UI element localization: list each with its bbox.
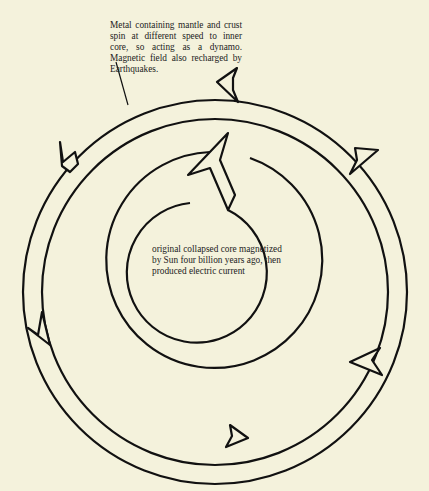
arrowhead-bottom xyxy=(226,425,248,447)
arrowhead-right-bottom xyxy=(350,348,382,375)
arrowhead-left-bottom xyxy=(28,312,50,345)
arrowhead-left-top xyxy=(60,142,78,172)
core-annotation: original collapsed core magnetized by Su… xyxy=(152,244,282,277)
spiral-arrowhead xyxy=(188,133,235,210)
outer-annotation: Metal containing mantle and crust spin a… xyxy=(110,20,242,75)
